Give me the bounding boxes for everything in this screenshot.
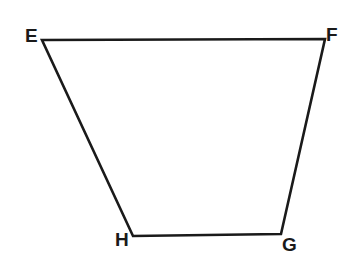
geometry-figure-canvas xyxy=(0,0,353,275)
vertex-label-f: F xyxy=(326,25,338,44)
vertex-label-g: G xyxy=(282,235,297,254)
vertex-label-h: H xyxy=(115,230,129,249)
vertex-label-e: E xyxy=(25,26,38,45)
